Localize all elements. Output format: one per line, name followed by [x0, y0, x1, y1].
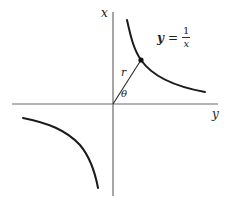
fraction-denominator: x	[183, 39, 189, 49]
radius-label: r	[121, 67, 126, 78]
angle-label: θ	[121, 89, 127, 99]
equation-lhs: y	[157, 31, 164, 45]
vertical-axis-label: x	[101, 7, 108, 19]
hyperbola-diagram: x y r θ y = 1 x	[0, 0, 226, 204]
fraction-numerator: 1	[182, 26, 190, 36]
hyperbola-branch-lower-left	[23, 118, 98, 188]
horizontal-axis-label: y	[212, 108, 219, 120]
curve-equation: y = 1 x	[157, 26, 190, 49]
equation-fraction: 1 x	[182, 26, 190, 49]
curve-point	[138, 57, 143, 62]
equation-equals: =	[168, 31, 178, 45]
